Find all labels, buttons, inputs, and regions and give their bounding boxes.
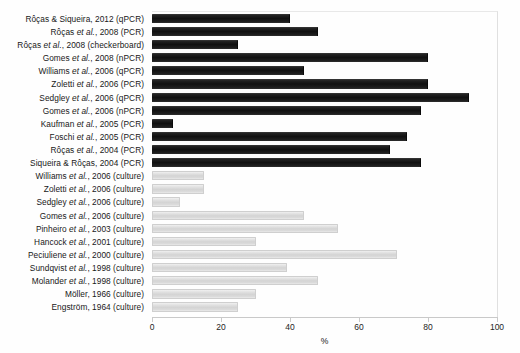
category-label: Rôças et al., 2008 (checkerboard)	[17, 39, 144, 52]
category-label: Sundqvist et al., 1998 (culture)	[30, 262, 144, 275]
x-tick-label: 40	[285, 322, 294, 332]
category-label: Sedgley et al., 2006 (culture)	[36, 196, 144, 209]
category-label: Gomes et al., 2008 (nPCR)	[43, 52, 144, 65]
x-tick-label: 80	[423, 322, 432, 332]
category-label: Rôças & Siqueira, 2012 (qPCR)	[25, 13, 144, 26]
category-label: Williams et al., 2006 (culture)	[35, 170, 144, 183]
category-label: Zoletti et al., 2006 (culture)	[44, 183, 144, 196]
category-label: Rôças et al., 2004 (PCR)	[51, 144, 144, 157]
bar-chart-figure: Rôças & Siqueira, 2012 (qPCR)Rôças et al…	[0, 0, 520, 353]
category-label: Siqueira & Rôças, 2004 (PCR)	[30, 157, 144, 170]
bar-pcr	[152, 14, 290, 23]
x-axis: % 020406080100	[152, 317, 497, 353]
bar-culture	[152, 171, 204, 180]
bars-container	[152, 12, 497, 317]
bar-culture	[152, 302, 238, 311]
bar-pcr	[152, 93, 469, 102]
category-label: Peciuliene et al., 2000 (culture)	[28, 249, 144, 262]
category-label: Foschi et al., 2005 (PCR)	[50, 131, 144, 144]
category-label: Pinheiro et al., 2003 (culture)	[36, 223, 144, 236]
bar-pcr	[152, 132, 407, 141]
x-axis-title: %	[152, 336, 497, 346]
category-label: Hancock et al., 2001 (culture)	[34, 236, 144, 249]
bar-pcr	[152, 119, 173, 128]
category-axis-labels: Rôças & Siqueira, 2012 (qPCR)Rôças et al…	[0, 11, 148, 316]
bar-pcr	[152, 40, 238, 49]
bar-pcr	[152, 27, 318, 36]
bar-culture	[152, 224, 338, 233]
category-label: Kaufman et al., 2005 (PCR)	[41, 118, 144, 131]
category-label: Möller, 1966 (culture)	[65, 288, 144, 301]
bar-pcr	[152, 79, 428, 88]
plot-area	[152, 11, 498, 318]
bar-pcr	[152, 53, 428, 62]
category-label: Rôças et al., 2008 (PCR)	[51, 26, 144, 39]
category-label: Engström, 1964 (culture)	[51, 301, 144, 314]
category-label: Sedgley et al., 2006 (qPCR)	[39, 92, 144, 105]
category-label: Gomes et al., 2006 (nPCR)	[43, 105, 144, 118]
category-label: Williams et al., 2006 (qPCR)	[38, 65, 144, 78]
bar-culture	[152, 184, 204, 193]
bar-culture	[152, 263, 287, 272]
bar-pcr	[152, 106, 421, 115]
x-tick-label: 100	[490, 322, 504, 332]
bar-pcr	[152, 66, 304, 75]
bar-culture	[152, 250, 397, 259]
bar-culture	[152, 197, 180, 206]
category-label: Molander et al., 1998 (culture)	[32, 275, 144, 288]
x-tick-label: 0	[150, 322, 155, 332]
bar-culture	[152, 237, 256, 246]
category-label: Gomes et al., 2006 (culture)	[40, 210, 144, 223]
bar-culture	[152, 276, 318, 285]
bar-pcr	[152, 158, 421, 167]
x-tick-label: 20	[216, 322, 225, 332]
x-tick-label: 60	[354, 322, 363, 332]
bar-culture	[152, 289, 256, 298]
bar-culture	[152, 211, 304, 220]
bar-pcr	[152, 145, 390, 154]
category-label: Zoletti et al., 2006 (PCR)	[51, 78, 144, 91]
